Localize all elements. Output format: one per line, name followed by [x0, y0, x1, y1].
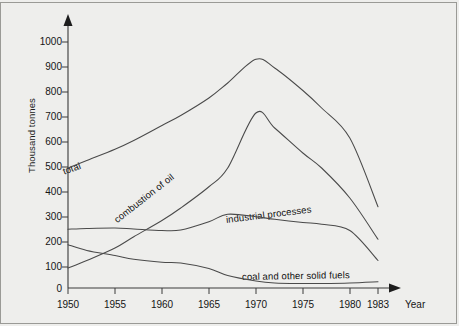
curve-combustion-of-oil — [68, 111, 378, 268]
y-tick-marks — [62, 42, 68, 267]
x-axis-arrow-icon — [389, 284, 401, 293]
curve-industrial-processes — [68, 214, 378, 260]
x-tick-marks — [68, 288, 378, 294]
axis-group — [62, 14, 401, 294]
curve-total — [68, 59, 378, 207]
chart-plot-area — [0, 0, 459, 326]
series-curves — [68, 59, 378, 284]
curve-coal-and-other-solid-fuels — [68, 245, 378, 284]
chart-figure: Thousand tonnes 1000 900 800 700 600 500… — [0, 0, 459, 326]
y-axis-arrow-icon — [64, 14, 73, 26]
